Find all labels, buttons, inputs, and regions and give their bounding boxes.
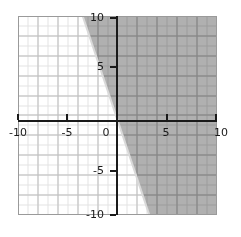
y-tick-10 (110, 17, 116, 19)
y-label-minus5: -5 (80, 165, 104, 176)
x-tick-5 (166, 114, 168, 120)
y-label-5: 5 (84, 61, 104, 72)
y-label-10: 10 (78, 12, 104, 23)
y-tick-5 (110, 66, 116, 68)
y-tick-minus5 (110, 170, 116, 172)
y-label-minus10: -10 (74, 209, 104, 220)
inequality-graph: -10 -5 0 5 10 10 5 -5 -10 (0, 0, 241, 237)
x-label-minus5: -5 (54, 127, 80, 138)
y-tick-minus10 (110, 214, 116, 216)
x-label-10: 10 (210, 127, 232, 138)
x-label-zero: 0 (99, 127, 113, 138)
x-label-minus10: -10 (3, 127, 33, 138)
y-axis (116, 16, 118, 215)
x-tick-10 (215, 114, 217, 120)
x-tick-minus10 (17, 114, 19, 120)
x-label-5: 5 (159, 127, 173, 138)
x-tick-minus5 (66, 114, 68, 120)
